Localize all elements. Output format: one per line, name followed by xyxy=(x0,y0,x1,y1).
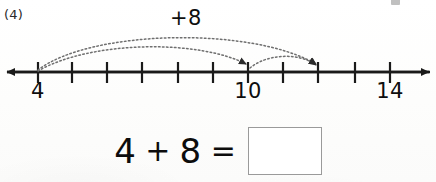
jump-amount-label: +8 xyxy=(160,6,212,30)
tick-label-fourteen: 14 xyxy=(360,79,420,103)
tick-label-start: 4 xyxy=(8,79,68,103)
answer-input-box[interactable] xyxy=(248,127,322,175)
tick-label-ten: 10 xyxy=(218,79,278,103)
equation-right-operand: 8 xyxy=(180,134,202,168)
worksheet-page: (4) xyxy=(0,0,436,182)
equation-equals-sign: = xyxy=(211,136,236,166)
equation-left-operand: 4 xyxy=(114,134,136,168)
equation-row: 4 + 8 = xyxy=(0,123,436,179)
equation-plus-operator: + xyxy=(145,136,170,166)
